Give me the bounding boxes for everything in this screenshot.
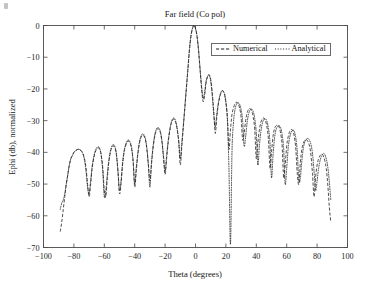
y-tick-label: −30 xyxy=(27,117,40,126)
y-tick-label: 0 xyxy=(35,22,39,31)
x-tick-label: −20 xyxy=(159,252,172,261)
series-line-analytical xyxy=(60,26,331,245)
legend-swatch-dashed-icon xyxy=(216,45,231,53)
y-axis-ticks xyxy=(44,26,348,248)
y-tick-label: −70 xyxy=(27,244,40,253)
x-tick-label: −60 xyxy=(98,252,111,261)
chart-title: Far field (Co pol) xyxy=(165,9,226,19)
legend-label-analytical: Analytical xyxy=(292,45,326,53)
x-axis-tick-labels: −100−80−60−40−20020406080100 xyxy=(35,252,354,261)
y-tick-label: −10 xyxy=(27,53,40,62)
x-tick-label: 60 xyxy=(283,252,291,261)
y-axis-title: Ephi (db), normalized xyxy=(7,98,17,174)
x-tick-label: 40 xyxy=(252,252,260,261)
legend-entry-analytical[interactable]: Analytical xyxy=(275,45,326,53)
figure-canvas: −100−80−60−40−20020406080100 −70−60−50−4… xyxy=(0,0,367,290)
x-tick-label: 0 xyxy=(193,252,197,261)
legend[interactable]: Numerical Analytical xyxy=(211,43,331,56)
legend-swatch-dotted-icon xyxy=(275,45,290,53)
x-tick-label: 80 xyxy=(313,252,321,261)
axes-box xyxy=(44,26,348,248)
legend-label-numerical: Numerical xyxy=(233,45,268,53)
data-series-layer xyxy=(60,26,331,245)
y-axis-tick-labels: −70−60−50−40−30−20−100 xyxy=(27,22,40,253)
x-tick-label: 20 xyxy=(222,252,230,261)
y-tick-label: −20 xyxy=(27,85,40,94)
x-tick-label: −40 xyxy=(128,252,141,261)
x-axis-title: Theta (degrees) xyxy=(168,269,222,279)
legend-entry-numerical[interactable]: Numerical xyxy=(216,45,268,53)
y-tick-label: −60 xyxy=(27,212,40,221)
x-tick-label: −80 xyxy=(67,252,80,261)
x-tick-label: −100 xyxy=(35,252,52,261)
x-axis-ticks xyxy=(44,26,348,248)
y-tick-label: −40 xyxy=(27,148,40,157)
x-tick-label: 100 xyxy=(341,252,353,261)
y-tick-label: −50 xyxy=(27,180,40,189)
series-line-numerical xyxy=(60,26,331,232)
